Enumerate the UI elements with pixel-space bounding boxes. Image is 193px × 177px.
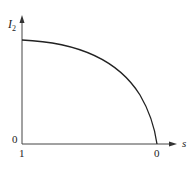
x-tick-1: 1 [19, 148, 25, 159]
y-axis-arrow-icon [20, 15, 25, 23]
curve-i2 [22, 40, 157, 144]
x-axis-label: s [182, 138, 186, 149]
y-tick-0: 0 [12, 134, 18, 145]
y-axis-label: I2 [8, 18, 16, 33]
chart-canvas [0, 0, 193, 177]
x-tick-0: 0 [154, 148, 160, 159]
x-axis-arrow-icon [169, 142, 177, 147]
